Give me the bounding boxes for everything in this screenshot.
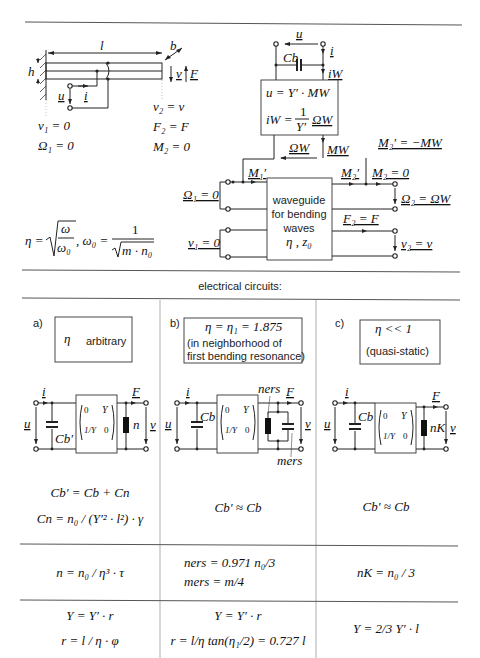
- circuit-b: i u Cb 0 Y 1/Y 0 F ners mers v: [165, 381, 311, 468]
- svg-text:0: 0: [225, 405, 230, 415]
- svg-text:0: 0: [84, 405, 89, 415]
- svg-text:i: i: [345, 384, 349, 399]
- left-bc-omega1: Ω₁ = 0: [38, 138, 74, 153]
- case-a-tag: a): [33, 317, 43, 329]
- bending-transducer-diagram: l b h v F u i v₁ = 0 Ω₁ = 0 v₂ = v: [0, 0, 480, 658]
- svg-text:F: F: [285, 384, 295, 399]
- transducer-network: u i Cb iW u = Y′ · MW iW = 1 Y′ ΩW ΩW MW…: [183, 26, 452, 260]
- coupling-eq2-den: Y′: [296, 119, 306, 134]
- svg-text:arbitrary: arbitrary: [86, 335, 127, 347]
- svg-text:0: 0: [383, 411, 388, 421]
- svg-text:i: i: [42, 384, 46, 399]
- waveguide-params: η , z₀: [286, 234, 312, 249]
- svg-text:n = n₀ / η³ · τ: n = n₀ / η³ · τ: [56, 565, 125, 580]
- v1-label: v₁ = 0: [188, 235, 221, 250]
- circuit-c: i u Cb 0 Y 1/Y 0 F nK v: [324, 384, 456, 453]
- svg-text:F: F: [131, 384, 141, 399]
- svg-text:1: 1: [132, 222, 139, 237]
- svg-text:ω: ω: [61, 221, 70, 236]
- svg-text:Cb: Cb: [200, 409, 216, 424]
- m-w-label: MW: [326, 142, 350, 157]
- svg-text:η =: η =: [25, 233, 43, 248]
- right-bc-v2: v₂ = v: [153, 99, 185, 114]
- right-bc-m2: M₂ = 0: [152, 139, 191, 154]
- force-label: F: [189, 66, 199, 81]
- admittance-row: Y = Y′ · r r = l / η · φ Y = Y′ · r r = …: [61, 608, 419, 648]
- svg-text:ners = 0.971 n₀/3: ners = 0.971 n₀/3: [184, 555, 276, 570]
- svg-text:1/Y: 1/Y: [84, 425, 97, 435]
- coupling-eq2-lhs: iW =: [266, 112, 292, 127]
- svg-text:mers = m/4: mers = m/4: [184, 574, 245, 589]
- case-b: b) η = η₁ = 1.875 (in neighborhood of fi…: [170, 317, 305, 363]
- svg-text:η << 1: η << 1: [375, 321, 412, 336]
- waveguide-line-1: waveguide: [272, 194, 326, 206]
- svg-text:v: v: [305, 416, 311, 431]
- coupling-eq1: u = Y′ · MW: [266, 85, 330, 100]
- omega-w-label: ΩW: [289, 140, 310, 155]
- svg-text:Cb′ ≈ Cb: Cb′ ≈ Cb: [215, 500, 262, 515]
- transducer-current-label: i: [330, 43, 334, 58]
- waveguide-line-2: for bending: [271, 208, 326, 220]
- beam-sketch: l b h v F u i v₁ = 0 Ω₁ = 0 v₂ = v: [28, 38, 199, 154]
- coupling-eq2-num: 1: [300, 104, 307, 119]
- svg-text:Cn = n₀ / (Y′² · l²) · γ: Cn = n₀ / (Y′² · l²) · γ: [37, 511, 144, 526]
- svg-text:v: v: [150, 417, 156, 432]
- svg-text:1/Y: 1/Y: [225, 425, 238, 435]
- waveguide-line-3: waves: [282, 222, 315, 234]
- right-bc-f2: F₂ = F: [152, 119, 190, 134]
- svg-text:Cb′ ≈ Cb: Cb′ ≈ Cb: [363, 499, 410, 514]
- svg-text:r = l / η · φ: r = l / η · φ: [61, 633, 118, 648]
- svg-text:Cb′ = Cb + Cn: Cb′ = Cb + Cn: [51, 485, 130, 500]
- velocity-label: v: [176, 66, 182, 81]
- m2-zero-label: M₂ = 0: [371, 165, 410, 180]
- coupling-eq2-rhs: ΩW: [312, 112, 333, 127]
- svg-text:nK: nK: [430, 420, 447, 435]
- capacitance-row: Cb′ = Cb + Cn Cn = n₀ / (Y′² · l²) · γ C…: [37, 485, 410, 526]
- f2-label: F₂ = F: [342, 211, 380, 226]
- svg-text:Y = 2/3 Y′ · l: Y = 2/3 Y′ · l: [353, 621, 419, 636]
- svg-text:η: η: [64, 331, 70, 346]
- svg-text:(quasi-static): (quasi-static): [366, 345, 429, 357]
- v2-label: v₂ = v: [401, 236, 433, 251]
- beam-voltage-label: u: [58, 88, 65, 103]
- svg-text:η = η₁ = 1.875: η = η₁ = 1.875: [205, 319, 283, 334]
- svg-text:i: i: [186, 384, 190, 399]
- svg-text:0: 0: [104, 425, 109, 435]
- case-c: c) η << 1 (quasi-static): [335, 317, 440, 364]
- svg-text:Cb: Cb: [358, 409, 374, 424]
- omega2-label: Ω₂ = ΩW: [401, 191, 452, 206]
- svg-text:ners: ners: [258, 381, 280, 396]
- m2-prime-label: M₂′: [340, 165, 359, 180]
- svg-text:m · n₀: m · n₀: [122, 243, 152, 258]
- transducer-voltage-label: u: [296, 26, 303, 41]
- svg-text:v: v: [450, 420, 456, 435]
- svg-text:1/Y: 1/Y: [383, 431, 396, 441]
- left-bc-v1: v₁ = 0: [38, 118, 71, 133]
- top-rule: [25, 22, 462, 25]
- svg-text:, ω₀ =: , ω₀ =: [76, 233, 108, 248]
- svg-text:n: n: [133, 417, 140, 432]
- svg-text:ω₀: ω₀: [57, 240, 71, 255]
- section-title: electrical circuits:: [198, 280, 282, 292]
- svg-text:mers: mers: [277, 453, 302, 468]
- eta-formula: η = ω ω₀ , ω₀ = 1 m · n₀: [25, 221, 154, 258]
- svg-text:Cb′: Cb′: [55, 431, 73, 446]
- case-c-tag: c): [335, 317, 344, 329]
- m2-relation: M₂′ = −MW: [377, 135, 443, 150]
- svg-text:nK = n₀ / 3: nK = n₀ / 3: [357, 565, 416, 580]
- beam-width-label: b: [170, 38, 177, 53]
- m1-prime-label: M₁′: [247, 165, 266, 180]
- compliance-row: n = n₀ / η³ · τ ners = 0.971 n₀/3 mers =…: [56, 555, 415, 589]
- omega1-label: Ω₁ = 0: [183, 187, 219, 202]
- case-b-tag: b): [170, 317, 180, 329]
- svg-text:Y = Y′ · r: Y = Y′ · r: [214, 608, 262, 623]
- svg-text:0: 0: [403, 431, 408, 441]
- svg-text:u: u: [324, 416, 331, 431]
- circuit-a: i u Cb′ 0 Y 1/Y 0 F n v: [24, 384, 156, 453]
- svg-text:u: u: [24, 416, 31, 431]
- transducer-current-w-label: iW: [328, 66, 344, 81]
- beam-height-label: h: [28, 64, 35, 79]
- svg-text:r = l/η tan(η₁/2) = 0.727 l: r = l/η tan(η₁/2) = 0.727 l: [171, 633, 306, 648]
- svg-text:u: u: [165, 416, 172, 431]
- svg-text:Y = Y′ · r: Y = Y′ · r: [66, 608, 114, 623]
